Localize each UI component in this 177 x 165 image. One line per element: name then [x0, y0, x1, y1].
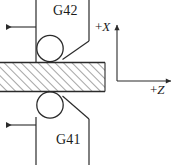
- z-axis-letter: Z: [157, 82, 164, 97]
- lower-tool-nose-circle: [37, 92, 63, 118]
- upper-tool-label: G42: [53, 4, 78, 18]
- x-axis-label: +X: [95, 20, 110, 33]
- workpiece: [0, 63, 105, 92]
- lower-tool-label: G41: [56, 133, 81, 147]
- coordinate-axes: [117, 25, 171, 81]
- x-axis-letter: X: [102, 19, 110, 34]
- lower-tool-angled-edge: [63, 96, 90, 119]
- upper-tool-nose-circle: [37, 35, 63, 61]
- z-axis-label: +Z: [150, 83, 165, 96]
- cutter-compensation-diagram: G42 G41 +X +Z: [0, 0, 177, 165]
- upper-tool-angled-edge: [63, 41, 90, 60]
- lower-tool: [36, 92, 89, 165]
- workpiece-hatch-fill: [0, 63, 105, 92]
